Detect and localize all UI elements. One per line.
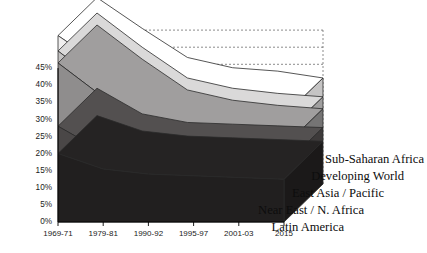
y-axis-tick-label: 45% xyxy=(36,63,52,72)
legend-label-latin-america: Latin America xyxy=(272,220,345,234)
x-axis-tick-label: 2001-03 xyxy=(224,229,254,238)
x-axis-tick-label: 1995-97 xyxy=(179,229,209,238)
y-axis-tick-label: 35% xyxy=(36,97,52,106)
legend-label-sub-saharan-africa: Sub-Saharan Africa xyxy=(325,152,424,166)
legend-label-near-east-n-africa: Near East / N. Africa xyxy=(258,203,364,217)
y-axis-tick-label: 30% xyxy=(36,115,52,124)
x-axis-tick-labels: 1969-711979-811990-921995-972001-032015 xyxy=(43,229,293,238)
x-axis-tick-label: 1979-81 xyxy=(89,229,119,238)
y-axis-tick-label: 15% xyxy=(36,166,52,175)
x-axis-tick-label: 1969-71 xyxy=(43,229,73,238)
y-axis-tick-label: 20% xyxy=(36,149,52,158)
legend-label-developing-world: Developing World xyxy=(311,169,405,183)
y-axis-tick-label: 0% xyxy=(40,217,52,226)
y-axis-tick-labels: 0%5%10%15%20%25%30%35%40%45% xyxy=(36,63,52,226)
area-chart-3d: 0%5%10%15%20%25%30%35%40%45% 1969-711979… xyxy=(0,0,427,253)
y-axis-tick-label: 40% xyxy=(36,80,52,89)
y-axis-tick-label: 5% xyxy=(40,200,52,209)
y-axis-tick-label: 25% xyxy=(36,132,52,141)
x-axis-tick-label: 1990-92 xyxy=(134,229,164,238)
stacked-area-bands xyxy=(58,0,323,222)
legend-label-east-asia-pacific: East Asia / Pacific xyxy=(292,186,384,200)
chart-container: 0%5%10%15%20%25%30%35%40%45% 1969-711979… xyxy=(0,0,427,253)
y-axis-tick-label: 10% xyxy=(36,183,52,192)
